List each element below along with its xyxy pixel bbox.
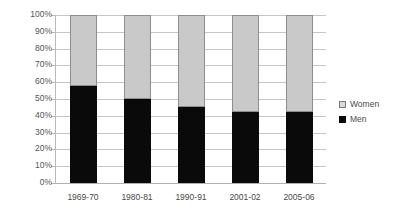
- legend-swatch-icon: [339, 101, 346, 108]
- gridline: [56, 183, 326, 184]
- bar-segment-women[interactable]: [232, 15, 259, 112]
- stacked-bar-chart: 100%90%80%70%60%50%40%30%20%10%0% 1969-7…: [0, 0, 403, 217]
- bar-group[interactable]: [70, 15, 97, 183]
- legend-swatch-icon: [339, 116, 346, 123]
- bar-segment-women[interactable]: [124, 15, 151, 99]
- plot-area: [56, 15, 326, 183]
- bar-segment-men[interactable]: [286, 112, 313, 183]
- legend-label: Men: [350, 115, 367, 124]
- bar-segment-men[interactable]: [124, 99, 151, 183]
- bar-segment-women[interactable]: [70, 15, 97, 86]
- chart-legend: WomenMen: [339, 97, 379, 127]
- bar-segment-women[interactable]: [286, 15, 313, 112]
- bar-segment-men[interactable]: [232, 112, 259, 183]
- bar-segment-men[interactable]: [178, 107, 205, 183]
- y-axis-tick-label: 0%: [6, 178, 52, 187]
- legend-label: Women: [350, 100, 379, 109]
- y-axis-tick-label: 40%: [6, 111, 52, 120]
- legend-item-men[interactable]: Men: [339, 112, 379, 127]
- y-axis-tick-label: 60%: [6, 77, 52, 86]
- bar-group[interactable]: [124, 15, 151, 183]
- bar-group[interactable]: [286, 15, 313, 183]
- legend-item-women[interactable]: Women: [339, 97, 379, 112]
- y-axis-tick-label: 90%: [6, 27, 52, 36]
- bar-segment-women[interactable]: [178, 15, 205, 107]
- bar-group[interactable]: [232, 15, 259, 183]
- y-axis-tick-label: 100%: [6, 10, 52, 19]
- y-axis-tick-label: 80%: [6, 44, 52, 53]
- y-axis-tick-label: 20%: [6, 144, 52, 153]
- y-axis-tick-label: 50%: [6, 94, 52, 103]
- y-axis-tick-label: 10%: [6, 161, 52, 170]
- bar-segment-men[interactable]: [70, 86, 97, 183]
- x-axis-tick-label: 2005-06: [264, 192, 334, 202]
- y-axis-tick-label: 70%: [6, 60, 52, 69]
- bar-group[interactable]: [178, 15, 205, 183]
- y-axis-tick-label: 30%: [6, 128, 52, 137]
